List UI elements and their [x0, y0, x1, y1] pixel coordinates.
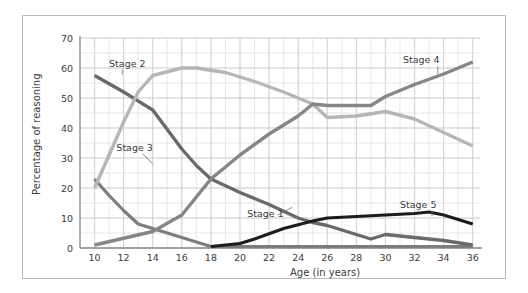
x-tick-label: 24 — [292, 252, 304, 263]
x-tick-label: 32 — [408, 252, 420, 263]
x-tick-label: 34 — [438, 252, 450, 263]
y-tick-label: 70 — [61, 33, 73, 44]
x-tick-label: 16 — [176, 252, 188, 263]
line-chart-canvas: 010203040506070 101214161820222426283032… — [0, 0, 528, 293]
series-labels-group: Stage 1Stage 2Stage 3Stage 4Stage 5 — [109, 54, 439, 220]
chart-figure: 010203040506070 101214161820222426283032… — [0, 0, 528, 293]
y-tick-labels-group: 010203040506070 — [61, 33, 73, 254]
y-tick-label: 60 — [61, 63, 73, 74]
series-leader-stage-3 — [143, 154, 153, 165]
y-tick-label: 20 — [61, 183, 73, 194]
x-tick-label: 30 — [379, 252, 391, 263]
x-tick-label: 22 — [263, 252, 275, 263]
x-tick-labels-group: 1012141618202224262830323436 — [88, 252, 478, 263]
y-tick-label: 30 — [61, 153, 73, 164]
x-tick-label: 26 — [321, 252, 333, 263]
y-tick-label: 0 — [67, 243, 73, 254]
x-tick-label: 36 — [467, 252, 479, 263]
series-label-stage-2: Stage 2 — [109, 58, 146, 69]
x-tick-label: 28 — [350, 252, 362, 263]
x-tick-label: 18 — [205, 252, 217, 263]
series-label-stage-4: Stage 4 — [403, 54, 440, 65]
series-label-stage-1: Stage 1 — [247, 208, 284, 219]
x-tick-label: 20 — [234, 252, 246, 263]
x-tick-label: 14 — [147, 252, 159, 263]
x-tick-label: 10 — [88, 252, 100, 263]
y-tick-label: 40 — [61, 123, 73, 134]
y-tick-label: 50 — [61, 93, 73, 104]
y-tick-label: 10 — [61, 213, 73, 224]
x-axis-title: Age (in years) — [290, 267, 360, 278]
x-tick-label: 12 — [118, 252, 130, 263]
series-label-stage-3: Stage 3 — [116, 142, 153, 153]
series-label-stage-5: Stage 5 — [400, 199, 437, 210]
y-axis-title: Percentage of reasoning — [31, 73, 42, 195]
